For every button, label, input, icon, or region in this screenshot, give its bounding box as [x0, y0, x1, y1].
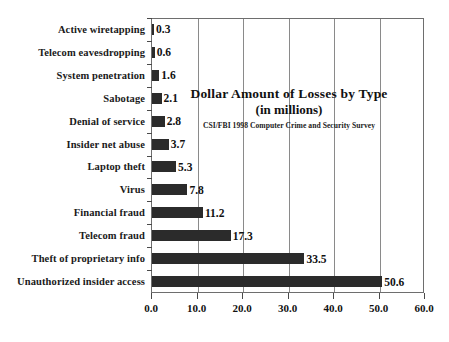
- bar-row: Telecom eavesdropping0.6: [0, 41, 449, 64]
- bar: [152, 70, 159, 81]
- x-axis-tick-label: 40.0: [323, 302, 342, 314]
- bar: [152, 184, 187, 195]
- bar-value-label: 1.6: [161, 69, 175, 81]
- y-axis-tick: [147, 110, 152, 111]
- bar: [152, 47, 155, 58]
- x-axis-tick: [379, 293, 380, 299]
- y-axis-tick: [147, 64, 152, 65]
- bar: [152, 93, 162, 104]
- chart-page: Active wiretapping0.3Telecom eavesdroppi…: [0, 0, 449, 342]
- bar: [152, 253, 304, 264]
- category-label: Sabotage: [0, 93, 145, 104]
- bar-value-label: 17.3: [233, 230, 253, 242]
- bar: [152, 207, 203, 218]
- x-axis-tick: [197, 293, 198, 299]
- bar-row: Sabotage2.1: [0, 87, 449, 110]
- x-axis-tick-label: 30.0: [278, 302, 297, 314]
- bar-row: Denial of service2.8: [0, 110, 449, 133]
- bar-row: Active wiretapping0.3: [0, 18, 449, 41]
- x-axis-tick-label: 20.0: [232, 302, 251, 314]
- category-label: Telecom eavesdropping: [0, 47, 145, 58]
- bar-value-label: 5.3: [178, 161, 192, 173]
- bar-value-label: 33.5: [306, 253, 326, 265]
- x-axis-tick: [242, 293, 243, 299]
- x-axis-tick: [151, 293, 152, 299]
- x-axis-tick: [333, 293, 334, 299]
- y-axis-tick: [147, 18, 152, 19]
- bar: [152, 24, 154, 35]
- bar-rows: Active wiretapping0.3Telecom eavesdroppi…: [0, 18, 449, 293]
- category-label: Laptop theft: [0, 161, 145, 172]
- bar-value-label: 7.8: [189, 184, 203, 196]
- bar-value-label: 0.3: [156, 23, 170, 35]
- bar-row: System penetration1.6: [0, 64, 449, 87]
- y-axis-tick: [147, 224, 152, 225]
- bar-value-label: 2.1: [164, 92, 178, 104]
- category-label: Active wiretapping: [0, 24, 145, 35]
- y-axis-tick: [147, 156, 152, 157]
- category-label: System penetration: [0, 70, 145, 81]
- x-axis-tick-label: 10.0: [187, 302, 206, 314]
- bar: [152, 230, 231, 241]
- category-label: Insider net abuse: [0, 139, 145, 150]
- x-axis-tick-label: 60.0: [414, 302, 433, 314]
- y-axis-tick: [147, 247, 152, 248]
- y-axis-tick: [147, 41, 152, 42]
- bar-value-label: 50.6: [384, 276, 404, 288]
- bar-row: Virus7.8: [0, 178, 449, 201]
- bar-row: Financial fraud11.2: [0, 201, 449, 224]
- bar-row: Unauthorized insider access50.6: [0, 270, 449, 293]
- bar-value-label: 0.6: [157, 46, 171, 58]
- bar-value-label: 11.2: [205, 207, 225, 219]
- x-axis-labels: 0.010.020.030.040.050.060.0: [0, 302, 449, 318]
- bar-row: Telecom fraud17.3: [0, 224, 449, 247]
- bar-row: Laptop theft5.3: [0, 156, 449, 179]
- bar-row: Theft of proprietary info33.5: [0, 247, 449, 270]
- bar: [152, 139, 169, 150]
- y-axis-tick: [147, 178, 152, 179]
- category-label: Theft of proprietary info: [0, 253, 145, 264]
- category-label: Denial of service: [0, 116, 145, 127]
- bar-row: Insider net abuse3.7: [0, 133, 449, 156]
- x-axis-tick-label: 50.0: [369, 302, 388, 314]
- bar: [152, 116, 165, 127]
- x-axis-ticks: [0, 293, 449, 301]
- y-axis-tick: [147, 201, 152, 202]
- y-axis-tick: [147, 133, 152, 134]
- bar-value-label: 2.8: [167, 115, 181, 127]
- category-label: Unauthorized insider access: [0, 276, 145, 287]
- category-label: Financial fraud: [0, 207, 145, 218]
- bar-value-label: 3.7: [171, 138, 185, 150]
- x-axis-tick: [424, 293, 425, 299]
- category-label: Virus: [0, 184, 145, 195]
- category-label: Telecom fraud: [0, 230, 145, 241]
- bar: [152, 276, 382, 287]
- y-axis-tick: [147, 87, 152, 88]
- bar: [152, 161, 176, 172]
- y-axis-tick: [147, 270, 152, 271]
- x-axis-tick: [288, 293, 289, 299]
- x-axis-tick-label: 0.0: [144, 302, 158, 314]
